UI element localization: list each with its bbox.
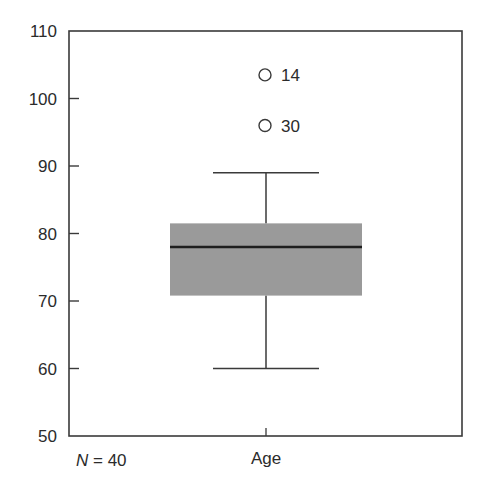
sample-size-label: N = 40 xyxy=(76,451,127,470)
axis-labels: AgeN = 40 xyxy=(76,449,281,470)
y-axis-ticks: 5060708090100110 xyxy=(29,22,79,446)
box-series: 1430 xyxy=(170,66,362,369)
sample-size-value: = 40 xyxy=(88,451,126,470)
y-tick-label: 50 xyxy=(38,427,57,446)
y-tick-label: 110 xyxy=(30,22,57,41)
box-plot-chart: 5060708090100110 1430 AgeN = 40 xyxy=(0,0,480,497)
y-tick-label: 80 xyxy=(38,225,57,244)
outlier-marker xyxy=(259,120,271,132)
outlier-case-label: 14 xyxy=(281,66,300,85)
y-tick-label: 90 xyxy=(38,157,57,176)
y-tick-label: 100 xyxy=(29,90,57,109)
outlier-marker xyxy=(259,69,271,81)
interquartile-box xyxy=(170,223,362,295)
box-age: 1430 xyxy=(170,66,362,369)
x-category-label: Age xyxy=(251,449,281,468)
y-tick-label: 70 xyxy=(38,292,57,311)
chart-canvas: 5060708090100110 1430 AgeN = 40 xyxy=(0,0,480,497)
outlier-case-label: 30 xyxy=(281,117,300,136)
y-tick-label: 60 xyxy=(38,360,57,379)
sample-size-symbol: N xyxy=(76,451,89,470)
